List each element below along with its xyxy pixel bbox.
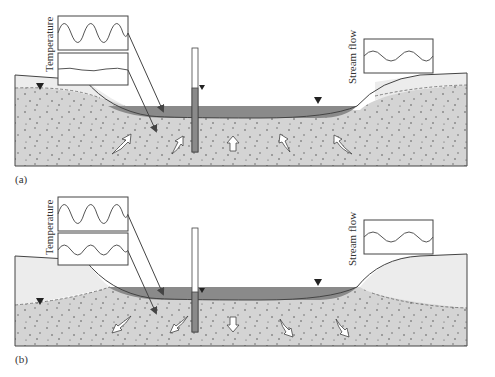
stream-flow-inset <box>364 39 433 73</box>
stream-flow-inset <box>364 220 433 254</box>
temperature-inset-stream <box>58 16 128 50</box>
temperature-inset-sediment <box>58 53 128 85</box>
panel-b: Temperature Stream flow (b) <box>15 197 467 366</box>
panel-a: Temperature Stream flow (a) <box>15 16 467 186</box>
diagram-canvas: Temperature Stream flow (a) <box>0 0 495 377</box>
piezometer-level-icon <box>199 85 205 90</box>
temperature-label: Temperature <box>43 199 55 255</box>
temperature-inset-stream <box>58 197 128 231</box>
panel-label-a: (a) <box>15 173 28 186</box>
piezometer-water <box>192 88 198 152</box>
inset-arrow-stream <box>128 215 163 294</box>
stream-flow-label: Stream flow <box>346 30 358 84</box>
sediment-body <box>15 85 467 166</box>
piezometer-water <box>192 292 198 332</box>
stream-flow-label: Stream flow <box>346 212 358 266</box>
panel-label-b: (b) <box>15 353 28 366</box>
temperature-inset-sediment <box>58 233 128 265</box>
temperature-label: Temperature <box>43 16 55 72</box>
stream-level-marker-icon <box>314 279 322 286</box>
inset-arrow-stream <box>128 33 163 111</box>
stream-level-marker-icon <box>314 97 322 104</box>
